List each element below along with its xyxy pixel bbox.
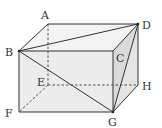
label-B: B xyxy=(5,46,13,59)
label-D: D xyxy=(142,19,151,32)
label-F: F xyxy=(5,107,13,120)
label-G: G xyxy=(108,116,117,128)
vertex-G-dot xyxy=(112,111,115,114)
cuboid-diagram: A B C D E F G H xyxy=(0,0,162,128)
label-H: H xyxy=(142,80,152,93)
label-E: E xyxy=(37,76,45,89)
vertex-D-dot xyxy=(137,23,140,26)
label-C: C xyxy=(116,52,124,65)
label-A: A xyxy=(40,9,50,22)
vertex-B-dot xyxy=(18,50,21,53)
